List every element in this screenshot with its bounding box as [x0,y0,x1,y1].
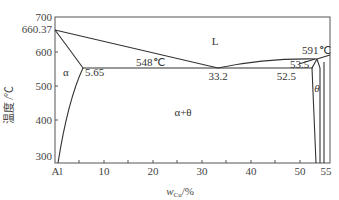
label-548: 548℃ [136,56,165,68]
y-tick-300: 300 [36,150,53,162]
y-tick-400: 400 [36,114,53,126]
x-axis-title: wCu/% [166,185,194,199]
y-tick-500: 500 [36,80,53,92]
x-tick-50: 50 [295,165,307,177]
x-axis: Al 10 20 30 40 50 55 wCu/% [52,160,333,199]
label-5-65: 5.65 [85,66,105,78]
theta-left-boundary [312,59,317,163]
x-tick-al: Al [52,165,63,177]
plot-frame [55,17,330,163]
phase-theta: θ [314,82,320,94]
phase-diagram: 700 660.37 600 500 400 300 温度 /℃ Al 10 2… [0,0,339,200]
solvus-alpha [58,68,83,163]
y-tick-660: 660.37 [22,23,53,35]
annotations: 5.65 548℃ 33.2 591℃ 53.5 52.5 [85,44,331,82]
label-52-5: 52.5 [277,70,297,82]
y-axis-title: 温度 /℃ [2,86,15,125]
theta-right-boundary [317,59,320,163]
x-tick-55: 55 [321,165,333,177]
y-tick-700: 700 [36,11,53,23]
phase-liquid: L [212,35,219,47]
y-axis: 700 660.37 600 500 400 300 温度 /℃ [2,11,58,162]
label-33-2: 33.2 [208,70,227,82]
x-tick-30: 30 [197,165,209,177]
x-tick-10: 10 [99,165,111,177]
x-tick-40: 40 [246,165,258,177]
label-591: 591℃ [302,44,331,56]
phase-boundaries [55,30,330,163]
x-tick-20: 20 [148,165,160,177]
phase-alpha: α [63,66,69,78]
phase-alpha-theta: α+θ [174,106,191,118]
y-tick-600: 600 [36,46,53,58]
label-53-5: 53.5 [290,58,310,70]
